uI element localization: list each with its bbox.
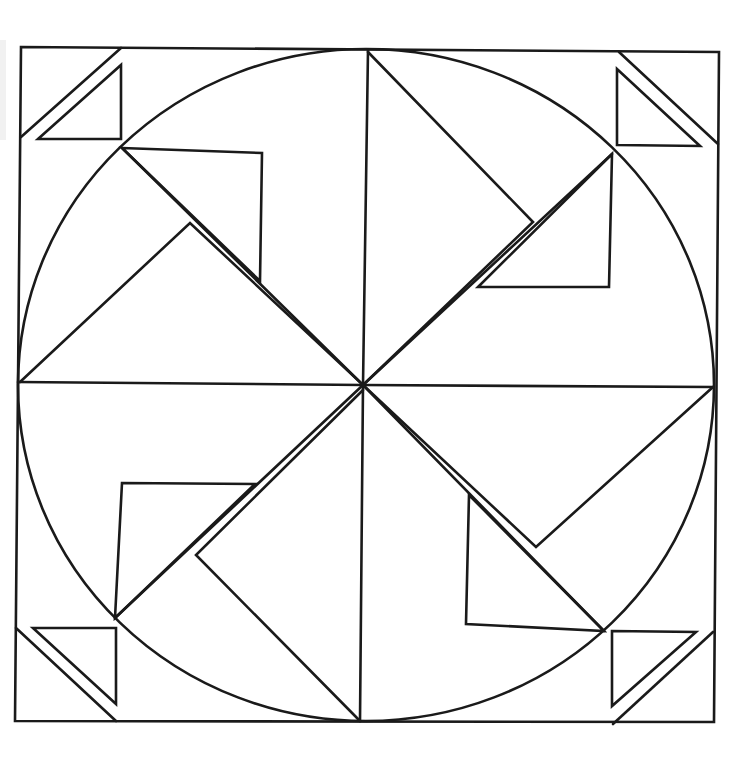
spoke-vertical-bottom <box>360 385 363 721</box>
corner-diagonal <box>21 48 121 137</box>
triangle-lower-right <box>466 495 604 631</box>
corner-bottom-right <box>612 631 713 724</box>
blade-right <box>363 385 713 547</box>
corner-triangle <box>33 628 116 704</box>
corner-bottom-left <box>16 628 116 721</box>
geometric-mandala-drawing <box>0 0 748 766</box>
corner-diagonal <box>16 628 116 721</box>
corner-top-right <box>617 52 718 146</box>
spoke-horizontal-left <box>18 382 363 385</box>
spoke-vertical-top <box>363 50 368 385</box>
spoke-horizontal-right <box>363 385 713 387</box>
corner-triangle <box>38 65 121 139</box>
corner-diagonal <box>619 52 718 144</box>
pinwheel-spokes <box>18 50 713 721</box>
corner-diagonal <box>613 632 713 724</box>
triangle-lower-left <box>115 483 255 618</box>
triangle-upper-right <box>478 154 612 287</box>
corner-triangle <box>612 631 696 706</box>
blade-top <box>363 52 533 385</box>
corner-top-left <box>21 48 121 139</box>
blade-bottom <box>196 390 363 721</box>
blade-left <box>20 223 362 384</box>
corner-triangle <box>617 69 700 146</box>
triangle-upper-left <box>122 148 262 281</box>
